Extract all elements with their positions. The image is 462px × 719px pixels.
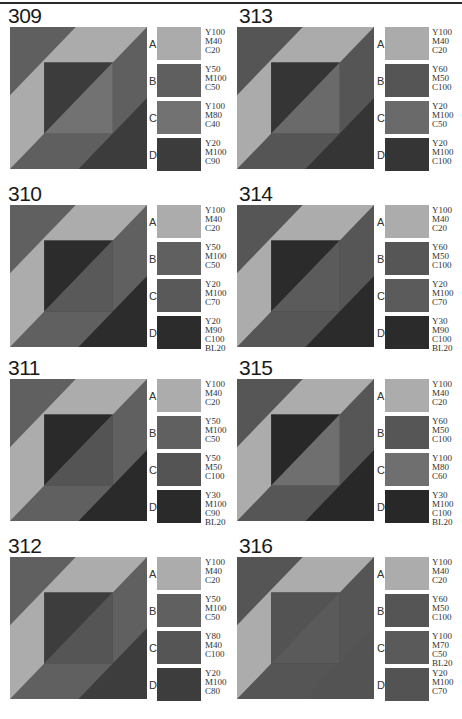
swatch-letter-d: D bbox=[377, 679, 385, 691]
color-swatch-b bbox=[157, 594, 201, 627]
swatch-letter-c: C bbox=[149, 642, 157, 654]
color-swatch-a bbox=[157, 205, 201, 238]
cmyk-value-d: Y20 M90 C100 BL20 bbox=[205, 317, 226, 353]
cmyk-value-c: Y20 M100 C70 bbox=[432, 280, 454, 307]
color-swatch-b bbox=[385, 594, 429, 627]
cmyk-value-b: Y50 M100 C50 bbox=[205, 595, 227, 622]
quilt-pattern-preview bbox=[10, 205, 147, 347]
cmyk-value-c: Y100 M70 C50 BL20 bbox=[432, 632, 453, 668]
color-swatch-a bbox=[385, 557, 429, 590]
scheme-number: 310 bbox=[8, 183, 42, 205]
color-swatch-a bbox=[385, 379, 429, 412]
cmyk-value-a: Y100 M40 C20 bbox=[205, 28, 225, 55]
cmyk-value-d: Y30 M100 C100 BL20 bbox=[432, 491, 454, 527]
swatch-letter-c: C bbox=[377, 112, 385, 124]
quilt-pattern-preview bbox=[237, 379, 374, 521]
swatch-letter-d: D bbox=[377, 149, 385, 161]
cmyk-value-d: Y20 M100 C70 bbox=[432, 669, 454, 696]
quilt-pattern-preview bbox=[10, 557, 147, 699]
color-swatch-b bbox=[385, 242, 429, 275]
swatch-letter-a: A bbox=[149, 568, 156, 580]
color-swatch-a bbox=[157, 557, 201, 590]
color-swatch-a bbox=[157, 27, 201, 60]
color-swatch-d bbox=[385, 138, 429, 171]
cmyk-value-c: Y20 M100 C50 bbox=[432, 102, 454, 129]
color-swatch-c bbox=[385, 631, 429, 664]
color-swatch-c bbox=[157, 631, 201, 664]
color-swatch-c bbox=[385, 101, 429, 134]
swatch-letter-c: C bbox=[149, 112, 157, 124]
swatch-letter-c: C bbox=[377, 290, 385, 302]
quilt-pattern-preview bbox=[237, 557, 374, 699]
cmyk-value-a: Y100 M40 C20 bbox=[432, 206, 452, 233]
color-swatch-b bbox=[157, 416, 201, 449]
color-scheme-block-312: 312 AY100 M40 C20BY50 M100 C50CY80 M40 C… bbox=[0, 530, 231, 706]
cmyk-value-a: Y100 M40 C20 bbox=[432, 558, 452, 585]
scheme-number: 313 bbox=[239, 5, 273, 27]
swatch-letter-a: A bbox=[149, 390, 156, 402]
swatch-letter-a: A bbox=[377, 568, 384, 580]
color-swatch-b bbox=[157, 242, 201, 275]
color-swatch-d bbox=[157, 490, 201, 523]
cmyk-value-b: Y60 M50 C100 bbox=[432, 595, 452, 622]
color-swatch-d bbox=[157, 316, 201, 349]
color-swatch-b bbox=[157, 64, 201, 97]
color-swatch-a bbox=[385, 27, 429, 60]
color-swatch-b bbox=[385, 64, 429, 97]
swatch-letter-a: A bbox=[377, 38, 384, 50]
swatch-letter-c: C bbox=[149, 464, 157, 476]
color-scheme-block-316: 316 AY100 M40 C20BY60 M50 C100CY100 M70 … bbox=[231, 530, 462, 706]
scheme-number: 314 bbox=[239, 183, 273, 205]
swatch-letter-d: D bbox=[149, 327, 157, 339]
swatch-letter-b: B bbox=[377, 75, 384, 87]
color-scheme-block-313: 313 AY100 M40 C20BY60 M50 C100CY20 M100 … bbox=[231, 0, 462, 176]
cmyk-value-a: Y100 M40 C20 bbox=[205, 380, 225, 407]
quilt-pattern-preview bbox=[10, 27, 147, 169]
swatch-letter-d: D bbox=[149, 149, 157, 161]
color-swatch-c bbox=[157, 279, 201, 312]
cmyk-value-b: Y60 M50 C100 bbox=[432, 243, 452, 270]
swatch-letter-b: B bbox=[377, 253, 384, 265]
cmyk-value-b: Y60 M50 C100 bbox=[432, 417, 452, 444]
color-swatch-d bbox=[157, 668, 201, 701]
color-swatch-a bbox=[157, 379, 201, 412]
scheme-number: 316 bbox=[239, 535, 273, 557]
swatch-letter-b: B bbox=[377, 605, 384, 617]
color-swatch-b bbox=[385, 416, 429, 449]
color-swatch-c bbox=[385, 279, 429, 312]
color-swatch-c bbox=[157, 453, 201, 486]
cmyk-value-a: Y100 M40 C20 bbox=[432, 380, 452, 407]
swatch-letter-c: C bbox=[377, 464, 385, 476]
cmyk-value-b: Y50 M100 C50 bbox=[205, 417, 227, 444]
cmyk-value-a: Y100 M40 C20 bbox=[432, 28, 452, 55]
color-swatch-d bbox=[157, 138, 201, 171]
color-swatch-a bbox=[385, 205, 429, 238]
cmyk-value-d: Y30 M90 C100 BL20 bbox=[432, 317, 453, 353]
swatch-letter-c: C bbox=[377, 642, 385, 654]
color-scheme-block-311: 311 AY100 M40 C20BY50 M100 C50CY50 M50 C… bbox=[0, 352, 231, 528]
color-swatch-c bbox=[385, 453, 429, 486]
swatch-letter-b: B bbox=[149, 253, 156, 265]
scheme-number: 315 bbox=[239, 357, 273, 379]
cmyk-value-a: Y100 M40 C20 bbox=[205, 558, 225, 585]
swatch-letter-c: C bbox=[149, 290, 157, 302]
cmyk-value-d: Y20 M100 C80 bbox=[205, 669, 227, 696]
cmyk-value-b: Y50 M100 C50 bbox=[205, 243, 227, 270]
cmyk-value-c: Y20 M100 C70 bbox=[205, 280, 227, 307]
color-swatch-c bbox=[157, 101, 201, 134]
swatch-letter-d: D bbox=[377, 501, 385, 513]
scheme-number: 312 bbox=[8, 535, 42, 557]
cmyk-value-b: Y50 M100 C50 bbox=[205, 65, 227, 92]
quilt-pattern-preview bbox=[237, 27, 374, 169]
cmyk-value-d: Y20 M100 C90 bbox=[205, 139, 227, 166]
swatch-letter-a: A bbox=[149, 216, 156, 228]
swatch-letter-b: B bbox=[377, 427, 384, 439]
color-scheme-block-310: 310 AY100 M40 C20BY50 M100 C50CY20 M100 … bbox=[0, 178, 231, 354]
cmyk-value-c: Y100 M80 C40 bbox=[205, 102, 225, 129]
cmyk-value-a: Y100 M40 C20 bbox=[205, 206, 225, 233]
cmyk-value-c: Y100 M80 C60 bbox=[432, 454, 452, 481]
color-scheme-block-314: 314 AY100 M40 C20BY60 M50 C100CY20 M100 … bbox=[231, 178, 462, 354]
cmyk-value-c: Y50 M50 C100 bbox=[205, 454, 225, 481]
cmyk-value-d: Y20 M100 C100 bbox=[432, 139, 454, 166]
color-scheme-block-309: 309 AY100 M40 C20BY50 M100 C50CY100 M80 … bbox=[0, 0, 231, 176]
